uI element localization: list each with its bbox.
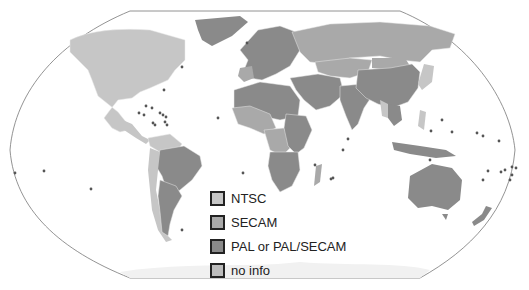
legend-item-secam: SECAM — [210, 210, 346, 234]
swatch-ntsc — [210, 191, 225, 206]
legend-label: PAL or PAL/SECAM — [231, 240, 346, 253]
swatch-pal — [210, 239, 225, 254]
swatch-secam — [210, 215, 225, 230]
legend-label: NTSC — [231, 192, 266, 205]
legend: NTSC SECAM PAL or PAL/SECAM no info — [210, 186, 346, 282]
legend-label: SECAM — [231, 216, 277, 229]
legend-item-ntsc: NTSC — [210, 186, 346, 210]
swatch-no-info — [210, 263, 225, 278]
legend-item-pal: PAL or PAL/SECAM — [210, 234, 346, 258]
legend-label: no info — [231, 264, 270, 277]
legend-item-no-info: no info — [210, 258, 346, 282]
